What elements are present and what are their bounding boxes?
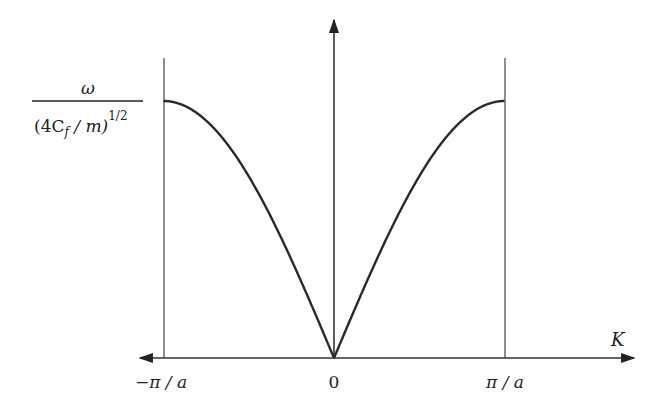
y-label-denominator: (4Cf / m)1/2 — [34, 109, 128, 139]
x-axis-label: K — [610, 329, 626, 350]
tick-label-pi-over-a: π / a — [485, 372, 524, 392]
dispersion-diagram: ω (4Cf / m)1/2 K −π / a 0 π / a — [0, 0, 659, 414]
tick-label-zero: 0 — [329, 372, 340, 392]
y-axis-label: ω (4Cf / m)1/2 — [32, 78, 143, 139]
tick-label-neg-pi-over-a: −π / a — [135, 372, 187, 392]
y-label-numerator: ω — [81, 78, 95, 98]
